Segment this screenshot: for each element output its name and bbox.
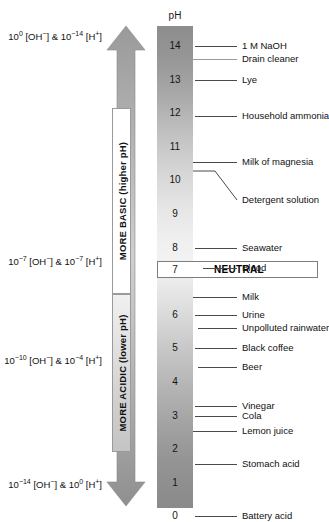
tick-seawater (195, 248, 237, 249)
ph-tick-14: 14 (157, 41, 193, 51)
concentration-label-0: 100 [OH−] & 10−14 [H+] (8, 31, 102, 42)
label-stomach-acid: Stomach acid (242, 459, 300, 469)
concentration-label-1: 10−7 [OH−] & 10−7 [H+] (8, 256, 102, 267)
tick-unpolluted-rainwater (198, 328, 237, 329)
tick-stomach-acid (195, 464, 237, 465)
more-basic-caption: MORE BASIC (higher pH) (112, 108, 131, 294)
tick-battery-acid (195, 516, 237, 517)
tick-black-coffee (195, 348, 237, 349)
ph-tick-10: 10 (157, 175, 193, 185)
label-unpolluted-rainwater: Unpolluted rainwater (242, 323, 329, 333)
more-acidic-label: MORE ACIDIC (lower pH) (116, 315, 127, 432)
more-basic-label: MORE BASIC (higher pH) (116, 142, 127, 260)
ph-tick-13: 13 (157, 75, 193, 85)
ph-tick-1: 1 (157, 478, 193, 488)
tick-lye (195, 80, 237, 81)
label-urine: Urine (242, 310, 265, 320)
tick-cola (195, 416, 237, 417)
ph-tick-8: 8 (157, 243, 193, 253)
label-seawater: Seawater (242, 243, 282, 253)
ph-tick-3: 3 (157, 411, 193, 421)
ph-tick-12: 12 (157, 108, 193, 118)
label-black-coffee: Black coffee (242, 343, 294, 353)
tick-beer (198, 367, 237, 368)
more-acidic-caption: MORE ACIDIC (lower pH) (112, 294, 131, 452)
tick-vinegar (195, 406, 237, 407)
label-drain-cleaner: Drain cleaner (242, 54, 299, 64)
label-household-ammonia: Household ammonia (242, 111, 329, 121)
tick-urine (195, 315, 237, 316)
ph-tick-4: 4 (157, 377, 193, 387)
label-lye: Lye (242, 75, 257, 85)
tick-milk (193, 297, 237, 298)
tick-household-ammonia (195, 116, 237, 117)
label-battery-acid: Battery acid (242, 511, 292, 521)
tick-milk-of-magnesia (193, 162, 237, 163)
label-1-m-naoh: 1 M NaOH (242, 41, 287, 51)
tick-1-m-naoh (195, 46, 237, 47)
concentration-label-3: 10−14 [OH−] & 100 [H+] (8, 479, 102, 490)
label-detergent-solution: Detergent solution (242, 195, 319, 205)
ph-tick-6: 6 (157, 310, 193, 320)
label-milk-of-magnesia: Milk of magnesia (242, 157, 313, 167)
ph-tick-2: 2 (157, 444, 193, 454)
ph-axis-title: pH (157, 10, 193, 21)
ph-tick-11: 11 (157, 142, 193, 152)
neutral-ph-number: 7 (157, 265, 193, 275)
detergent-leader-line (193, 170, 243, 206)
concentration-label-2: 10−10 [OH−] & 10−4 [H+] (4, 355, 102, 366)
tick-blood (203, 268, 237, 269)
label-beer: Beer (242, 362, 262, 372)
ph-tick-0: 0 (157, 511, 193, 521)
ph-tick-9: 9 (157, 209, 193, 219)
tick-drain-cleaner (193, 59, 237, 60)
tick-lemon-juice (193, 431, 237, 432)
label-cola: Cola (242, 411, 262, 421)
label-milk: Milk (242, 292, 259, 302)
label-lemon-juice: Lemon juice (242, 426, 293, 436)
ph-tick-5: 5 (157, 343, 193, 353)
label-blood: Blood (242, 263, 266, 273)
